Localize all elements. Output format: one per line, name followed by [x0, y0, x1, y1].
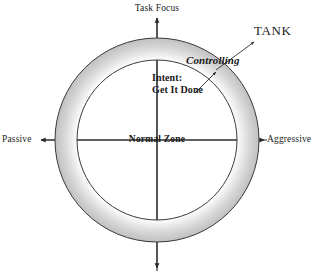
annotation-controlling: Controlling	[186, 54, 240, 66]
diagram-canvas: Task Focus Passive Aggressive Normal Zon…	[0, 0, 327, 273]
annotation-intent-block: Intent: Get It Done	[152, 72, 203, 95]
axis-label-aggressive: Aggressive	[267, 134, 311, 145]
annotation-intent-line1: Intent:	[152, 72, 182, 83]
ring-center-label-normal-zone: Normal Zone	[57, 134, 257, 145]
annotation-callout-tank: TANK	[254, 24, 291, 39]
annotation-intent-line2: Get It Done	[152, 84, 203, 95]
axis-label-task-focus: Task Focus	[107, 3, 207, 14]
axis-label-passive: Passive	[2, 134, 32, 145]
